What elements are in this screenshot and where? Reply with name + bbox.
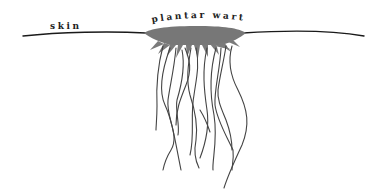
skin-label: skin: [50, 21, 82, 31]
plantar-wart-label: plantar wart: [151, 10, 247, 25]
skin-line-left: [23, 32, 146, 36]
plantar-wart-diagram: skin plantar wart: [0, 0, 377, 195]
skin-line-right: [243, 31, 364, 36]
wart-roots: [156, 46, 247, 188]
